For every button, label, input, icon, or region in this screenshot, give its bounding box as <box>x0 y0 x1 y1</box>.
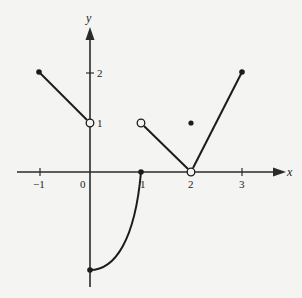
open-point-icon <box>137 119 145 127</box>
y-axis-label: y <box>85 11 92 25</box>
segment-4 <box>187 69 245 176</box>
isolated-point-icon <box>188 120 193 125</box>
closed-point-icon <box>36 69 42 75</box>
x-tick-label-3: 3 <box>239 178 245 190</box>
x-tick-label-2: 2 <box>188 178 194 190</box>
y-tick-label-2: 2 <box>97 67 103 79</box>
x-axis: x <box>17 165 293 179</box>
segment-3 <box>137 119 188 169</box>
open-point-icon <box>86 119 94 127</box>
x-axis-label: x <box>286 165 293 179</box>
open-point-icon <box>187 168 195 176</box>
segment-1 <box>36 69 94 127</box>
y-axis: y <box>85 11 95 287</box>
x-axis-arrow-icon <box>273 168 286 177</box>
closed-point-icon <box>239 69 245 75</box>
x-tick-label-neg1: −1 <box>33 178 45 190</box>
y-tick-label-1: 1 <box>97 117 103 129</box>
function-graph-figure: x y −1 1 2 3 0 2 1 <box>0 0 302 298</box>
origin-label: 0 <box>80 178 86 190</box>
closed-point-icon <box>87 267 93 273</box>
segment-2 <box>87 169 144 273</box>
y-axis-arrow-icon <box>86 27 95 40</box>
closed-point-icon <box>138 169 144 175</box>
